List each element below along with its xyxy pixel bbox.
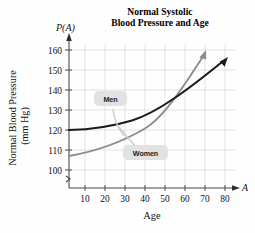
series-curve-women [69, 58, 202, 156]
y-axis-arrowhead [66, 33, 72, 41]
tick-label-x-40: 40 [140, 194, 150, 204]
tick-label-y-110: 110 [48, 146, 62, 156]
tick-label-x-20: 20 [100, 194, 110, 204]
tick-label-x-50: 50 [160, 194, 170, 204]
tick-label-y-130: 130 [48, 106, 62, 116]
series-arrowhead-men [220, 57, 228, 67]
tick-label-y-160: 160 [48, 46, 62, 56]
vertical-gridlines [85, 44, 225, 188]
x-axis-arrowhead [232, 185, 240, 191]
series-arrowhead-women [199, 50, 206, 60]
y-axis-title-line2: (mm Hg) [19, 107, 31, 145]
tick-label-x-30: 30 [120, 194, 130, 204]
men-callout-label: Men [103, 95, 117, 104]
y-axis-variable-label: P(A) [55, 22, 76, 34]
blood-pressure-line-chart: Normal Systolic Blood Pressure and Age P… [0, 0, 255, 233]
tick-label-x-60: 60 [180, 194, 190, 204]
chart-figure: Normal Systolic Blood Pressure and Age P… [0, 0, 255, 233]
tick-label-y-140: 140 [48, 86, 62, 96]
tick-label-x-70: 70 [200, 194, 210, 204]
tick-label-y-120: 120 [48, 126, 62, 136]
women-leader-line [118, 126, 136, 147]
chart-title-line2: Blood Pressure and Age [111, 17, 209, 28]
tick-label-y-150: 150 [48, 66, 62, 76]
series-curve-men [69, 62, 222, 130]
y-axis-title-line1: Normal Blood Pressure [7, 70, 18, 166]
x-axis-title: Age [143, 210, 161, 221]
x-axis-variable-label: A [241, 182, 249, 193]
women-callout-label: Women [133, 149, 158, 158]
tick-label-x-10: 10 [80, 194, 90, 204]
tick-label-x-80: 80 [220, 194, 230, 204]
chart-title-line1: Normal Systolic [127, 6, 193, 17]
tick-label-y-100: 100 [48, 166, 62, 176]
